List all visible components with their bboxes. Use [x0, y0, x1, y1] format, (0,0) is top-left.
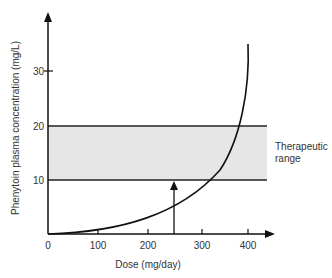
y-axis-arrow	[44, 12, 52, 22]
y-tick-10: 10	[33, 175, 45, 186]
therapeutic-band	[48, 126, 267, 180]
dose-arrow-head	[170, 181, 178, 190]
y-tick-20: 20	[33, 121, 45, 132]
therapeutic-label-line2: range	[275, 153, 301, 164]
x-tick-400: 400	[240, 240, 257, 251]
x-axis-label: Dose (mg/day)	[115, 259, 181, 270]
y-tick-30: 30	[33, 66, 45, 77]
x-tick-300: 300	[194, 240, 211, 251]
x-tick-100: 100	[90, 240, 107, 251]
x-axis-arrow	[265, 230, 275, 238]
y-axis-label: Phenytoin plasma concentration (mg/L)	[10, 41, 21, 215]
x-tick-0: 0	[45, 240, 51, 251]
chart: 0 100 200 300 400 10 20 30 Dose (mg/day)…	[0, 0, 332, 278]
x-tick-200: 200	[140, 240, 157, 251]
therapeutic-label-line1: Therapeutic	[275, 141, 328, 152]
